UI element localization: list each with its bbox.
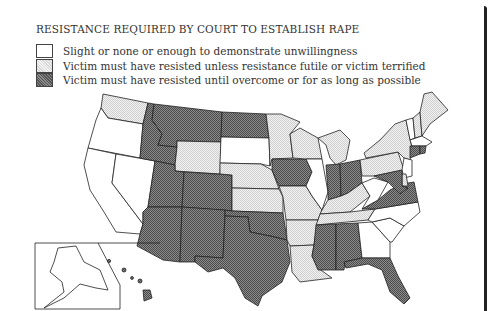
state-arkansas (286, 220, 318, 246)
state-mississippi (312, 224, 336, 270)
state-iowa (272, 159, 312, 186)
state-colorado (182, 172, 232, 211)
state-michigan (318, 130, 350, 165)
page-border (484, 6, 487, 311)
state-wyoming (175, 141, 221, 174)
state-new-york (364, 120, 412, 160)
state-hawaii (107, 259, 152, 301)
inset-alaska-hawaii (35, 243, 160, 309)
state-indiana (326, 164, 341, 200)
state-south-dakota (220, 137, 270, 166)
state-alaska (44, 246, 108, 308)
state-montana (152, 104, 222, 147)
us-map (0, 0, 499, 311)
state-florida (344, 258, 410, 304)
state-new-mexico (180, 207, 225, 262)
state-arizona (137, 207, 182, 262)
state-maine (420, 92, 448, 136)
state-wisconsin (290, 128, 322, 159)
state-kansas (232, 188, 283, 213)
state-connecticut (410, 146, 420, 158)
state-north-dakota (221, 112, 269, 138)
state-rhode-island (420, 146, 426, 154)
